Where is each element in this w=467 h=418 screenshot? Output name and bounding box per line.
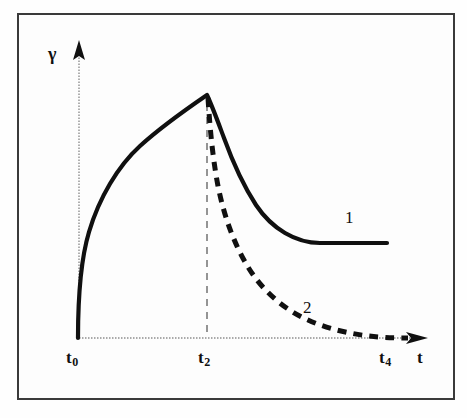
x-tick-sub-t4: 4 bbox=[385, 355, 391, 369]
x-tick-base-t2: t bbox=[198, 348, 204, 367]
x-tick-base-t0: t bbox=[66, 348, 72, 367]
x-tick-sub-t0: 0 bbox=[72, 355, 78, 369]
up-arrow-axis-icon bbox=[73, 40, 85, 60]
x-tick-label-t0: t0 bbox=[66, 348, 78, 370]
curve-2-label: 2 bbox=[303, 298, 312, 318]
curve-1-label: 1 bbox=[345, 208, 354, 228]
x-tick-sub-t2: 2 bbox=[204, 355, 210, 369]
x-axis-label: t bbox=[417, 348, 423, 368]
curve-1-path bbox=[78, 95, 387, 338]
x-tick-base-t4: t bbox=[379, 348, 385, 367]
x-tick-label-t2: t2 bbox=[198, 348, 210, 370]
y-axis-label: γ bbox=[48, 44, 56, 65]
figure-root: γ t0 t2 t4 t 1 2 bbox=[0, 0, 467, 418]
x-tick-label-t4: t4 bbox=[379, 348, 391, 370]
